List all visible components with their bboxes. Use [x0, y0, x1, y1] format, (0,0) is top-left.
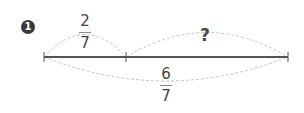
number-line-diagram: [0, 0, 304, 113]
fraction-bar: [160, 85, 172, 86]
left-segment-fraction: 2 7: [79, 14, 91, 51]
numerator: 6: [161, 67, 171, 82]
problem-number-badge: 1: [21, 20, 35, 34]
denominator: 7: [161, 89, 171, 104]
whole-fraction: 6 7: [160, 67, 172, 104]
numerator: 2: [80, 14, 90, 29]
unknown-segment-label: ?: [200, 25, 210, 45]
fraction-bar: [79, 32, 91, 33]
denominator: 7: [80, 36, 90, 51]
